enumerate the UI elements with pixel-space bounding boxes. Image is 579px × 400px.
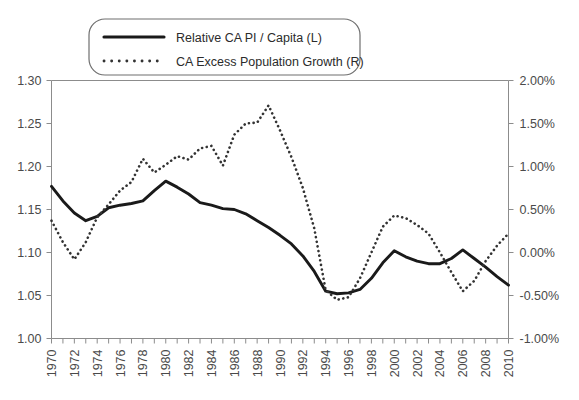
x-axis-tick-label: 2010: [502, 349, 516, 377]
x-axis-tick-label: 2000: [388, 349, 402, 377]
right-axis-tick-label: 1.50%: [520, 117, 555, 131]
x-axis-tick-label: 2008: [479, 349, 493, 377]
x-axis-tick-label: 1996: [342, 349, 356, 377]
right-axis-tick-label: -1.00%: [520, 332, 560, 346]
x-axis-tick-label: 1988: [251, 349, 265, 377]
right-axis-tick-label: 1.00%: [520, 160, 555, 174]
right-axis-tick-label: -0.50%: [520, 289, 560, 303]
left-axis-tick-label: 1.30: [17, 74, 41, 88]
left-axis-tick-label: 1.05: [17, 289, 41, 303]
x-axis-tick-label: 1982: [182, 349, 196, 377]
x-axis-tick-label: 2004: [433, 349, 447, 377]
x-axis-tick-label: 1990: [274, 349, 288, 377]
left-axis-tick-label: 1.20: [17, 160, 41, 174]
left-axis-tick-label: 1.00: [17, 332, 41, 346]
chart-container: 1.001.051.101.151.201.251.30 -1.00%-0.50…: [0, 0, 579, 400]
x-axis-tick-label: 1986: [228, 349, 242, 377]
x-axis-tick-label: 1984: [205, 349, 219, 377]
x-axis-tick-label: 1976: [114, 349, 128, 377]
legend-item-label: CA Excess Population Growth (R): [176, 55, 364, 69]
right-axis-tick-label: 0.00%: [520, 246, 555, 260]
x-axis-tick-label: 1974: [91, 349, 105, 377]
x-axis-tick-label: 1972: [68, 349, 82, 377]
dual-axis-line-chart: 1.001.051.101.151.201.251.30 -1.00%-0.50…: [0, 0, 579, 400]
x-axis-tick-label: 1994: [319, 349, 333, 377]
x-axis-tick-label: 2002: [411, 349, 425, 377]
right-axis-tick-label: 2.00%: [520, 74, 555, 88]
left-axis-tick-label: 1.25: [17, 117, 41, 131]
left-axis-tick-label: 1.15: [17, 203, 41, 217]
chart-legend: Relative CA PI / Capita (L)CA Excess Pop…: [89, 19, 364, 75]
x-axis-tick-label: 1970: [45, 349, 59, 377]
x-axis-tick-label: 1978: [136, 349, 150, 377]
x-axis-tick-label: 1992: [296, 349, 310, 377]
right-axis-tick-label: 0.50%: [520, 203, 555, 217]
legend-item-label: Relative CA PI / Capita (L): [176, 31, 322, 45]
left-axis-tick-label: 1.10: [17, 246, 41, 260]
x-axis-tick-label: 2006: [456, 349, 470, 377]
x-axis-tick-label: 1998: [365, 349, 379, 377]
x-axis-tick-label: 1980: [159, 349, 173, 377]
